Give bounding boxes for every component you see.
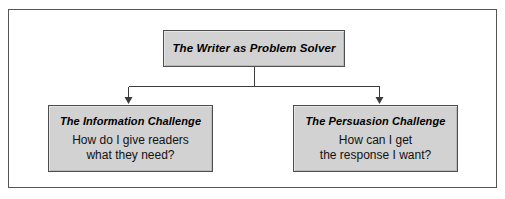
diagram-root: The Writer as Problem Solver The Informa…	[0, 0, 505, 199]
node-persuasion-challenge: The Persuasion Challenge How can I get t…	[293, 105, 458, 172]
node-information-challenge-title: The Information Challenge	[60, 115, 201, 128]
node-persuasion-challenge-title: The Persuasion Challenge	[306, 115, 446, 128]
node-persuasion-challenge-body: How can I get the response I want?	[320, 133, 431, 163]
node-information-challenge: The Information Challenge How do I give …	[48, 105, 213, 172]
node-root-title: The Writer as Problem Solver	[172, 42, 335, 55]
node-information-challenge-body: How do I give readers what they need?	[72, 133, 189, 163]
node-writer-as-problem-solver: The Writer as Problem Solver	[163, 30, 345, 67]
